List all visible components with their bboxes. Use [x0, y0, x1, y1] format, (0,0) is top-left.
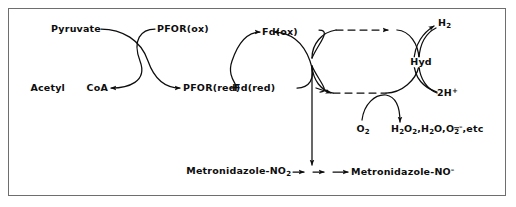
ros-h2o: ,H [417, 123, 429, 134]
metronidazole-no2-subscript: 2 [286, 170, 291, 178]
edge-fd-red-to-pfor-ox [274, 32, 312, 88]
two-h-superscript: + [452, 87, 458, 95]
label-fd-ox: Fd(ox) [262, 27, 298, 37]
ros-etc: ,etc [463, 123, 484, 134]
label-two-h-plus: 2H+ [437, 88, 458, 98]
dashed-cycle-lower-left-arc [312, 66, 333, 93]
label-hyd-enzyme: Hyd [409, 57, 433, 67]
label-pyruvate: Pyruvate [51, 24, 101, 34]
ros-h: H [391, 123, 399, 134]
label-acetyl: Acetyl [30, 83, 65, 93]
fd-cycle-right-upper-arc [312, 30, 324, 58]
pathway-figure: Pyruvate Acetyl CoA PFOR(ox) PFOR(red) F… [0, 0, 516, 207]
two-h-element: 2H [437, 87, 452, 98]
edge-o2-to-ros [362, 95, 400, 122]
dashed-cycle-lower-right-arc [386, 66, 419, 93]
metronidazole-no2-text: Metronidazole-NO [186, 165, 286, 176]
label-pfor-ox: PFOR(ox) [157, 24, 209, 34]
label-fd-red: Fd(red) [234, 83, 275, 93]
metronidazole-no-text: Metronidazole-NO [351, 166, 451, 177]
label-pfor-red: PFOR(red) [183, 83, 240, 93]
label-reactive-oxygen-species: H2O2,H2O,O2–,etc [391, 124, 484, 136]
hyd-cycle-inner-arc-lower [419, 66, 437, 93]
edge-pyruvate-to-pfor-red [101, 29, 180, 88]
label-metronidazole-no2: Metronidazole-NO2 [186, 166, 291, 178]
dashed-cycle-upper-right-arc [397, 30, 419, 58]
label-h2: H2 [438, 18, 451, 30]
metronidazole-no-charge: – [451, 166, 455, 174]
h2-element: H [438, 17, 446, 28]
o2-subscript: 2 [365, 128, 370, 136]
edge-pfor-ox-to-acetyl-coa [111, 29, 155, 88]
label-coa: CoA [87, 83, 108, 93]
label-o2: O2 [356, 124, 369, 136]
dashed-cycle-upper-left-arc [312, 30, 336, 58]
label-metronidazole-no-radical: Metronidazole-NO– [351, 167, 454, 177]
edge-pfor-red-to-fd-ox [230, 32, 260, 88]
h2-subscript: 2 [446, 22, 451, 30]
hyd-cycle-inner-arc [419, 28, 436, 58]
ros-superoxide: O,O [434, 123, 454, 134]
